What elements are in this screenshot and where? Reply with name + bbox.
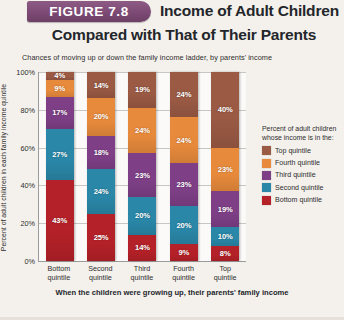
y-axis-title: Percent of adult children in each family… — [0, 72, 10, 262]
legend-item[interactable]: Third quintile — [262, 171, 344, 180]
bar-segment[interactable]: 24% — [128, 108, 156, 153]
bar-segment[interactable]: 4% — [46, 72, 74, 80]
bar-segment[interactable]: 27% — [46, 129, 74, 180]
bar-segment[interactable]: 17% — [46, 97, 74, 129]
bar-segment-value: 27% — [52, 150, 67, 159]
bar-segment-value: 43% — [52, 216, 67, 225]
bar-segment-value: 24% — [176, 90, 191, 99]
bar-segment-value: 17% — [52, 108, 67, 117]
bar-segment-value: 14% — [135, 243, 150, 252]
legend-swatch — [262, 171, 271, 180]
legend-label: Bottom quintile — [275, 196, 322, 204]
legend-swatch — [262, 146, 271, 155]
legend-item[interactable]: Bottom quintile — [262, 196, 344, 205]
x-axis-tick-line: quintile — [122, 273, 162, 282]
bar-segment[interactable]: 24% — [170, 72, 198, 117]
bar-segment[interactable]: 23% — [170, 163, 198, 206]
x-axis-tick-label: Bottomquintile — [39, 264, 79, 282]
x-axis-tick-line: quintile — [80, 273, 120, 282]
bar-segment[interactable]: 23% — [128, 153, 156, 196]
bar-segment-value: 40% — [218, 105, 233, 114]
legend-item[interactable]: Fourth quintile — [262, 159, 344, 168]
figure-title-line-2: Compared with That of Their Parents — [34, 24, 334, 46]
bar-segment-value: 9% — [54, 84, 65, 93]
bar-segment[interactable]: 10% — [211, 227, 239, 246]
x-axis-tick-line: Bottom — [39, 264, 79, 273]
bar-segment-value: 25% — [94, 233, 109, 242]
y-axis-tick-label: 100% — [16, 68, 35, 77]
bar-segment[interactable]: 9% — [170, 244, 198, 261]
bar-segment-value: 24% — [176, 136, 191, 145]
y-axis-tick-label: 20% — [20, 219, 35, 228]
x-axis-tick-line: quintile — [205, 273, 245, 282]
stacked-bar[interactable]: 4%9%17%27%43% — [46, 72, 74, 261]
legend-swatch — [262, 183, 271, 192]
bar-segment-value: 19% — [135, 85, 150, 94]
y-axis-tick-label: 80% — [20, 105, 35, 114]
legend-item[interactable]: Top quintile — [262, 146, 344, 155]
bar-segment[interactable]: 14% — [87, 72, 115, 98]
bar-segment[interactable]: 20% — [170, 206, 198, 244]
bar-segment[interactable]: 8% — [211, 246, 239, 261]
x-axis-tick-line: Second — [80, 264, 120, 273]
x-axis-tick-label: Thirdquintile — [122, 264, 162, 282]
figure-number-badge: FIGURE 7.8 — [27, 1, 151, 22]
bar-segment-value: 10% — [218, 232, 233, 241]
x-axis-tick-line: quintile — [164, 273, 204, 282]
bar-segment-value: 20% — [135, 211, 150, 220]
bar-segment-value: 23% — [135, 171, 150, 180]
bar-segment[interactable]: 40% — [211, 72, 239, 148]
bar-segment[interactable]: 25% — [87, 214, 115, 261]
x-axis-tick-label: Fourthquintile — [164, 264, 204, 282]
bar-segment-value: 23% — [218, 165, 233, 174]
bar-segment-value: 24% — [94, 187, 109, 196]
legend-label: Second quintile — [275, 184, 324, 192]
bar-segment[interactable]: 20% — [87, 98, 115, 135]
x-axis-title: When the children were growing up, their… — [24, 288, 320, 297]
bar-segment[interactable]: 14% — [128, 235, 156, 261]
bar-group: 4%9%17%27%43%14%20%18%24%25%19%24%23%20%… — [39, 72, 246, 261]
legend-title: Percent of adult children whose income i… — [262, 125, 344, 142]
bar-segment-value: 8% — [220, 249, 231, 258]
bar-segment-value: 24% — [135, 126, 150, 135]
bar-segment[interactable]: 23% — [211, 148, 239, 191]
legend: Percent of adult children whose income i… — [262, 125, 344, 208]
bar-segment[interactable]: 9% — [46, 80, 74, 97]
bar-segment[interactable]: 18% — [87, 136, 115, 170]
stacked-bar[interactable]: 19%24%23%20%14% — [128, 72, 156, 261]
bar-segment[interactable]: 24% — [87, 169, 115, 214]
x-axis-tick-line: quintile — [39, 273, 79, 282]
stacked-bar[interactable]: 24%24%23%20%9% — [170, 72, 198, 261]
bar-segment-value: 19% — [218, 205, 233, 214]
x-axis-tick-line: Third — [122, 264, 162, 273]
figure-number-label: FIGURE 7.8 — [49, 4, 129, 19]
x-axis-labels: BottomquintileSecondquintileThirdquintil… — [38, 264, 246, 282]
y-axis-tick-label: 40% — [20, 181, 35, 190]
y-axis-tick-label: 60% — [20, 143, 35, 152]
bar-segment[interactable]: 19% — [128, 72, 156, 108]
legend-label: Fourth quintile — [275, 159, 320, 167]
bar-segment[interactable]: 20% — [128, 197, 156, 235]
stacked-bar[interactable]: 40%23%19%10%8% — [211, 72, 239, 261]
bar-segment[interactable]: 24% — [170, 117, 198, 162]
bar-segment[interactable]: 43% — [46, 180, 74, 261]
legend-swatch — [262, 159, 271, 168]
y-axis-tick-label: 0% — [24, 257, 35, 266]
legend-item[interactable]: Second quintile — [262, 183, 344, 192]
legend-label: Top quintile — [275, 147, 311, 155]
legend-items: Top quintileFourth quintileThird quintil… — [262, 146, 344, 205]
figure-title-line-1: Income of Adult Children — [160, 0, 344, 22]
x-axis-tick-label: Topquintile — [205, 264, 245, 282]
stacked-bar[interactable]: 14%20%18%24%25% — [87, 72, 115, 261]
bar-segment-value: 14% — [94, 81, 109, 90]
x-axis-tick-line: Top — [205, 264, 245, 273]
bar-segment-value: 20% — [94, 112, 109, 121]
bar-segment[interactable]: 19% — [211, 191, 239, 227]
legend-label: Third quintile — [275, 171, 316, 179]
bar-segment-value: 9% — [178, 248, 189, 257]
figure-subtitle: Chances of moving up or down the family … — [22, 53, 322, 62]
figure-header: FIGURE 7.8 Income of Adult Children Comp… — [0, 0, 344, 52]
bar-segment-value: 20% — [176, 221, 191, 230]
legend-swatch — [262, 196, 271, 205]
x-axis-tick-line: Fourth — [164, 264, 204, 273]
